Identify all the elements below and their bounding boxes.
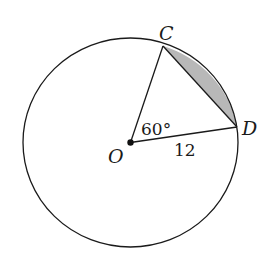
label-d: D — [241, 117, 257, 139]
chord-cd — [163, 46, 237, 127]
label-c: C — [159, 22, 174, 44]
radius-label: 12 — [174, 140, 196, 160]
label-o: O — [108, 145, 124, 167]
circle-diagram: C D O 60° 12 — [0, 0, 274, 255]
center-point — [127, 139, 133, 145]
angle-label: 60° — [141, 119, 171, 139]
